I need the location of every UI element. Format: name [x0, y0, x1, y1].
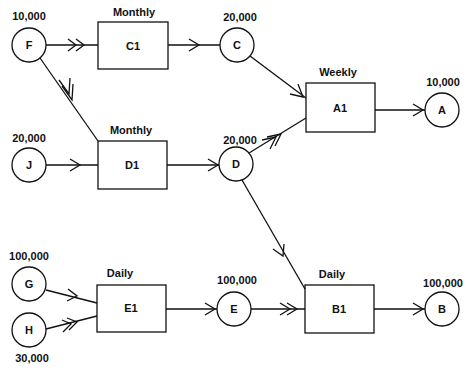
arrow-icon: [67, 289, 77, 301]
box-label-E1: E1: [124, 302, 137, 314]
frequency-B1: Daily: [319, 268, 345, 280]
quantity-H: 30,000: [15, 352, 49, 364]
edge-D-B1: [242, 180, 305, 289]
box-label-A1: A1: [333, 102, 347, 114]
quantity-C: 20,000: [223, 11, 257, 23]
frequency-C1: Monthly: [113, 6, 155, 18]
edge-C-A1: [250, 56, 306, 98]
node-label-B: B: [438, 303, 446, 315]
quantity-B: 100,000: [423, 277, 463, 289]
quantity-E: 100,000: [217, 274, 257, 286]
double-arrow-icon: [67, 318, 77, 330]
node-label-D: D: [232, 158, 240, 170]
edge-D-A1: [249, 118, 306, 153]
edge-F-D1: [40, 58, 98, 141]
quantity-J: 20,000: [12, 132, 46, 144]
node-label-G: G: [25, 278, 34, 290]
frequency-E1: Daily: [107, 267, 133, 279]
node-label-J: J: [26, 159, 32, 171]
node-label-C: C: [233, 39, 241, 51]
quantity-G: 100,000: [9, 250, 49, 262]
frequency-A1: Weekly: [319, 66, 357, 78]
node-label-E: E: [230, 303, 237, 315]
quantity-A: 10,000: [426, 76, 460, 88]
double-arrow-icon: [59, 78, 70, 94]
box-label-B1: B1: [332, 303, 346, 315]
box-label-D1: D1: [125, 159, 139, 171]
quantity-F: 10,000: [12, 10, 46, 22]
frequency-D1: Monthly: [110, 124, 152, 136]
network-diagram: [0, 0, 470, 371]
node-label-F: F: [26, 39, 33, 51]
quantity-D: 20,000: [223, 134, 257, 146]
node-label-A: A: [438, 104, 446, 116]
box-label-C1: C1: [126, 40, 140, 52]
node-label-H: H: [25, 324, 33, 336]
